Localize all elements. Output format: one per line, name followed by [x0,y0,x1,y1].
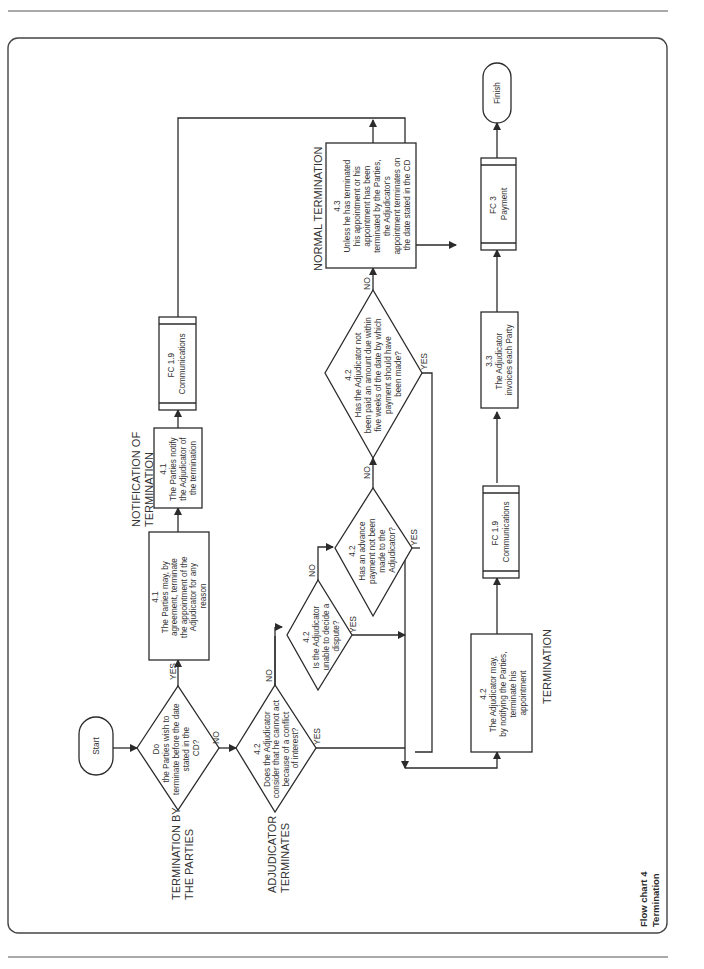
flowchart-page: Start Finish Do the Parties wish to term… [0,0,704,969]
finish-label: Finish [493,82,502,104]
d2-yes-label: YES [312,728,322,745]
subprocess-communications-2 [483,486,519,578]
flowchart-caption: Flow chart 4 Termination [638,869,661,927]
section-notification-of-termination: NOTIFICATION OF TERMINATION [130,429,155,527]
section-termination-by-parties: TERMINATION BY THE PARTIES [170,804,195,900]
d3-yes-label: YES [348,616,358,633]
subprocess-payment [481,158,516,250]
d2-no-label: NO [264,669,274,682]
d3-no-label: NO [307,564,317,577]
d1-no-label: NO [211,731,221,744]
section-termination: TERMINATION [541,629,553,704]
process-normal-termination-text: 4.3 Unless he has terminated his appoint… [333,155,412,254]
start-label: Start [92,737,101,755]
d5-yes-label: YES [419,353,429,370]
section-normal-termination: NORMAL TERMINATION [312,146,324,271]
section-adjudicator-terminates: ADJUDICATOR TERMINATES [266,813,291,893]
d4-yes-label: YES [409,529,419,546]
d5-no-label: NO [362,277,372,290]
d1-yes-label: YES [168,663,178,680]
d4-no-label: NO [362,466,372,479]
